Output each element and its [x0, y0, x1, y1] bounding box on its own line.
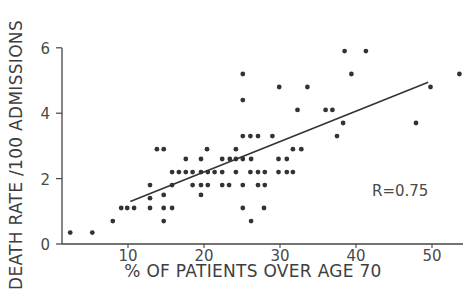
y-tick-label: 0 — [40, 236, 50, 254]
data-point — [256, 134, 261, 139]
data-point — [148, 196, 153, 201]
data-point — [240, 98, 245, 103]
data-point — [155, 147, 160, 152]
data-point — [249, 219, 254, 224]
data-point — [183, 157, 188, 162]
data-point — [291, 170, 296, 175]
data-point — [205, 147, 210, 152]
data-point — [199, 193, 204, 198]
data-point — [170, 206, 175, 211]
data-point — [457, 72, 462, 77]
data-point — [299, 147, 304, 152]
data-point — [341, 121, 346, 126]
data-point — [234, 147, 239, 152]
data-point — [240, 72, 245, 77]
data-point — [161, 219, 166, 224]
data-point — [119, 206, 124, 211]
data-point — [323, 108, 328, 113]
data-point — [240, 206, 245, 211]
data-point — [349, 72, 354, 77]
data-point — [335, 134, 340, 139]
x-tick-label: 50 — [422, 247, 441, 265]
data-point — [170, 170, 175, 175]
data-point — [284, 170, 289, 175]
x-axis-label: % OF PATIENTS OVER AGE 70 — [124, 261, 381, 281]
scatter-chart: 0246 1020304050 % OF PATIENTS OVER AGE 7… — [0, 0, 470, 298]
data-point — [277, 85, 282, 90]
data-point — [414, 121, 419, 126]
data-point — [276, 157, 281, 162]
data-point — [199, 157, 204, 162]
data-point — [161, 206, 166, 211]
data-points — [68, 49, 462, 235]
data-point — [68, 230, 73, 235]
data-point — [249, 157, 254, 162]
data-point — [234, 170, 239, 175]
data-point — [342, 49, 347, 54]
data-point — [428, 85, 433, 90]
data-point — [262, 206, 267, 211]
data-point — [132, 206, 137, 211]
data-point — [276, 170, 281, 175]
data-point — [291, 147, 296, 152]
data-point — [295, 108, 300, 113]
data-point — [161, 193, 166, 198]
data-point — [110, 219, 115, 224]
data-point — [148, 183, 153, 188]
data-point — [148, 206, 153, 211]
data-point — [240, 183, 245, 188]
data-point — [256, 170, 261, 175]
data-point — [227, 183, 232, 188]
data-point — [256, 183, 261, 188]
y-tick-label: 6 — [40, 40, 50, 58]
data-point — [183, 170, 188, 175]
data-point — [190, 183, 195, 188]
y-axis-label: DEATH RATE /100 ADMISSIONS — [6, 20, 26, 290]
data-point — [90, 230, 95, 235]
data-point — [248, 170, 253, 175]
data-point — [125, 206, 130, 211]
data-point — [305, 85, 310, 90]
correlation-annotation: R=0.75 — [372, 182, 428, 200]
data-point — [199, 183, 204, 188]
data-point — [161, 147, 166, 152]
data-point — [284, 157, 289, 162]
data-point — [220, 157, 225, 162]
data-point — [262, 170, 267, 175]
y-axis: 0246 — [40, 40, 62, 254]
y-tick-label: 2 — [40, 171, 50, 189]
data-point — [270, 134, 275, 139]
data-point — [330, 108, 335, 113]
data-point — [262, 183, 267, 188]
data-point — [205, 183, 210, 188]
data-point — [248, 134, 253, 139]
data-point — [220, 170, 225, 175]
data-point — [220, 183, 225, 188]
data-point — [364, 49, 369, 54]
data-point — [212, 170, 217, 175]
data-point — [240, 134, 245, 139]
y-tick-label: 4 — [40, 105, 50, 123]
data-point — [177, 170, 182, 175]
data-point — [190, 170, 195, 175]
